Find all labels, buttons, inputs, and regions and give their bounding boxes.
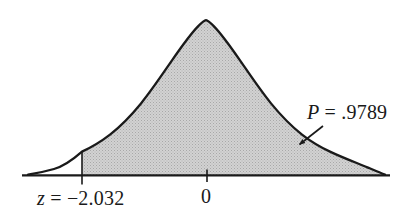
normal-distribution-figure: z = −2.032 0 P = .9789 — [0, 0, 413, 222]
shaded-probability-region — [82, 20, 385, 175]
p-number-text: .9789 — [341, 101, 387, 123]
z-equals-text: = — [45, 187, 67, 209]
p-variable-text: P — [307, 101, 319, 123]
z-value-label: z = −2.032 — [37, 188, 124, 208]
origin-axis-label: 0 — [201, 186, 211, 206]
z-variable-text: z — [37, 187, 45, 209]
z-number-text: −2.032 — [67, 187, 124, 209]
probability-value-label: P = .9789 — [307, 102, 387, 122]
p-equals-text: = — [319, 101, 341, 123]
